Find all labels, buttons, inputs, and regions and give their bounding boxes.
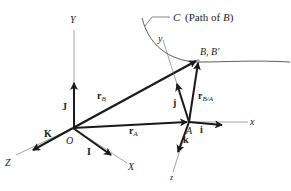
curve-label: C (Path of B) — [173, 11, 234, 24]
origin-A-label: A — [185, 125, 193, 136]
K-label: K — [44, 128, 52, 139]
Z-axis-label: Z — [5, 157, 11, 168]
rB-label: rB — [97, 90, 106, 103]
J-label: J — [62, 101, 67, 112]
x-axis-moving-label: x — [249, 116, 255, 127]
origin-O-label: O — [66, 135, 73, 146]
point-B-label: B, B′ — [200, 46, 220, 57]
i-unit-vector — [189, 122, 222, 125]
X-axis-label: X — [127, 161, 135, 172]
Y-axis-label: Y — [70, 14, 77, 25]
curve-label-leader — [145, 17, 170, 26]
kinematics-diagram: C (Path of B) Y Z X J K I O rB rA rB/A B… — [0, 0, 291, 191]
i-label: i — [200, 124, 203, 135]
rB-vector — [73, 61, 196, 128]
rA-label: rA — [129, 125, 138, 138]
j-unit-vector — [177, 84, 189, 122]
rBA-vector — [189, 63, 198, 122]
z-axis-moving-label: z — [169, 173, 174, 182]
y-axis-moving-label: y — [157, 33, 163, 44]
j-label: j — [172, 97, 176, 108]
rBA-label: rB/A — [198, 90, 214, 103]
point-B — [197, 60, 200, 63]
I-label: I — [87, 146, 91, 157]
I-unit-vector — [73, 128, 111, 155]
